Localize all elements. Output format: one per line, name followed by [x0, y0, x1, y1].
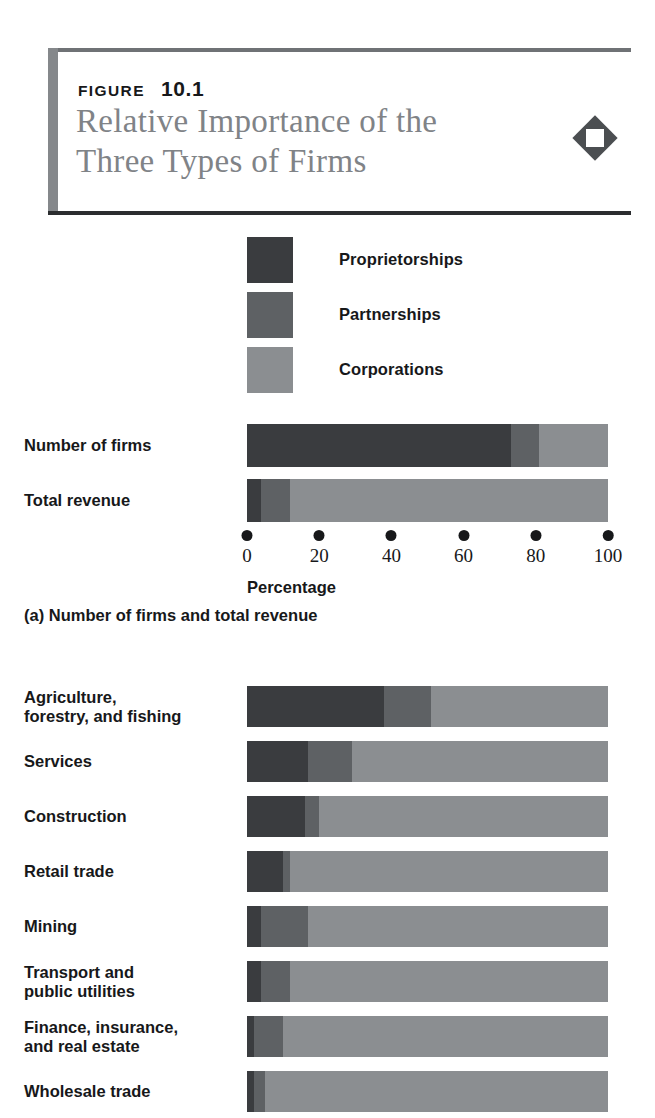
bar-category-label: Agriculture,forestry, and fishing — [24, 688, 244, 726]
axis-tick-dot — [530, 530, 541, 541]
bar-segment-corporations — [539, 424, 608, 467]
bar-segment-corporations — [290, 961, 608, 1002]
bar-category-label-line: Construction — [24, 807, 244, 826]
axis-tick-label: 60 — [454, 545, 473, 567]
bar-track — [247, 961, 608, 1002]
figure-title: Relative Importance of the Three Types o… — [76, 101, 546, 181]
bar-category-label-line: Wholesale trade — [24, 1082, 244, 1101]
axis-tick: 0 — [242, 530, 253, 567]
panel-a-caption: (a) Number of firms and total revenue — [24, 606, 317, 625]
bar-category-label: Wholesale trade — [24, 1082, 244, 1101]
bar-segment-corporations — [290, 479, 608, 522]
bar-segment-partnerships — [305, 796, 319, 837]
axis-tick-label: 40 — [382, 545, 401, 567]
axis-tick-dot — [603, 530, 614, 541]
bar-segment-partnerships — [254, 1071, 265, 1112]
bar-segment-corporations — [265, 1071, 608, 1112]
bar-category-label: Number of firms — [24, 436, 234, 455]
bar-row: Services — [0, 741, 655, 782]
bar-segment-proprietorships — [247, 479, 261, 522]
axis-tick-dot — [314, 530, 325, 541]
legend-swatch — [247, 292, 293, 338]
bar-category-label-line: forestry, and fishing — [24, 707, 244, 726]
axis-tick-dot — [242, 530, 253, 541]
bar-category-label-line: Finance, insurance, — [24, 1018, 244, 1037]
bar-category-label-line: Services — [24, 752, 244, 771]
bar-category-label: Mining — [24, 917, 244, 936]
bar-segment-proprietorships — [247, 424, 511, 467]
bar-segment-proprietorships — [247, 741, 308, 782]
bar-category-label-line: Transport and — [24, 963, 244, 982]
bar-segment-partnerships — [254, 1016, 283, 1057]
legend-item: Partnerships — [247, 287, 607, 342]
header-rule-top — [48, 48, 631, 52]
bar-segment-proprietorships — [247, 961, 261, 1002]
panel-a-axis-title: Percentage — [247, 578, 336, 597]
figure-number-label: 10.1 — [161, 77, 204, 101]
bar-row: Total revenue — [0, 479, 655, 522]
axis-tick: 80 — [526, 530, 545, 567]
chart-legend: ProprietorshipsPartnershipsCorporations — [247, 232, 607, 397]
bar-row: Finance, insurance,and real estate — [0, 1016, 655, 1057]
bar-segment-corporations — [319, 796, 608, 837]
axis-tick: 20 — [310, 530, 329, 567]
axis-tick: 100 — [594, 530, 623, 567]
bar-segment-corporations — [431, 686, 608, 727]
legend-label: Partnerships — [339, 305, 441, 324]
bar-segment-proprietorships — [247, 686, 384, 727]
bar-segment-proprietorships — [247, 851, 283, 892]
bar-segment-partnerships — [283, 851, 290, 892]
figure-number-row: FIGURE 10.1 — [78, 77, 204, 101]
axis-tick: 40 — [382, 530, 401, 567]
bar-track — [247, 479, 608, 522]
legend-swatch — [247, 237, 293, 283]
header-rule-bottom — [48, 211, 631, 215]
diamond-icon — [572, 115, 618, 161]
bar-category-label-line: Agriculture, — [24, 688, 244, 707]
figure-kicker-label: FIGURE — [78, 82, 145, 100]
bar-category-label-line: and real estate — [24, 1037, 244, 1056]
bar-segment-corporations — [308, 906, 608, 947]
bar-track — [247, 851, 608, 892]
bar-track — [247, 1071, 608, 1112]
bar-segment-corporations — [283, 1016, 608, 1057]
legend-item: Corporations — [247, 342, 607, 397]
axis-tick: 60 — [454, 530, 473, 567]
bar-category-label-line: Number of firms — [24, 436, 234, 455]
bar-segment-partnerships — [261, 961, 290, 1002]
bar-segment-corporations — [352, 741, 608, 782]
bar-segment-proprietorships — [247, 1016, 254, 1057]
bar-category-label: Finance, insurance,and real estate — [24, 1018, 244, 1056]
legend-label: Corporations — [339, 360, 444, 379]
axis-tick-label: 0 — [242, 545, 253, 567]
bar-row: Retail trade — [0, 851, 655, 892]
bar-row: Agriculture,forestry, and fishing — [0, 686, 655, 727]
axis-tick-dot — [386, 530, 397, 541]
bar-segment-proprietorships — [247, 1071, 254, 1112]
bar-category-label: Total revenue — [24, 491, 234, 510]
bar-row: Number of firms — [0, 424, 655, 467]
bar-segment-partnerships — [384, 686, 431, 727]
bar-segment-partnerships — [308, 741, 351, 782]
bar-track — [247, 1016, 608, 1057]
bar-segment-partnerships — [261, 906, 308, 947]
bar-category-label: Transport andpublic utilities — [24, 963, 244, 1001]
axis-tick-label: 100 — [594, 545, 623, 567]
bar-category-label-line: public utilities — [24, 982, 244, 1001]
legend-swatch — [247, 347, 293, 393]
diamond-icon-inner — [586, 129, 604, 147]
figure-title-line-2: Three Types of Firms — [76, 141, 546, 181]
bar-category-label-line: Total revenue — [24, 491, 234, 510]
figure-header: FIGURE 10.1 Relative Importance of the T… — [48, 48, 631, 215]
legend-label: Proprietorships — [339, 250, 463, 269]
axis-tick-label: 20 — [310, 545, 329, 567]
bar-segment-corporations — [290, 851, 608, 892]
legend-item: Proprietorships — [247, 232, 607, 287]
bar-row: Construction — [0, 796, 655, 837]
axis-tick-dot — [458, 530, 469, 541]
axis-tick-label: 80 — [526, 545, 545, 567]
bar-row: Mining — [0, 906, 655, 947]
bar-row: Wholesale trade — [0, 1071, 655, 1112]
bar-segment-partnerships — [511, 424, 540, 467]
bar-segment-partnerships — [261, 479, 290, 522]
